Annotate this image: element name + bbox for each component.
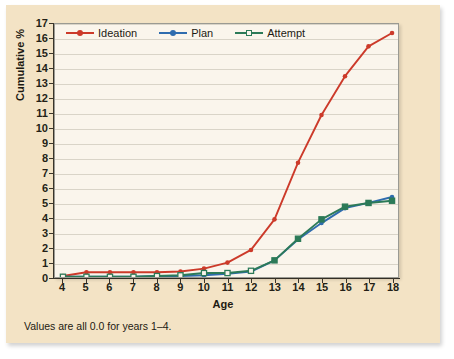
y-axis-tick-label: 11 xyxy=(28,108,48,119)
x-axis-tick-label: 14 xyxy=(292,282,304,293)
x-axis-tick-label: 13 xyxy=(269,282,281,293)
series-line xyxy=(63,33,392,276)
legend-marker-attempt-icon xyxy=(235,28,263,38)
x-axis-tick-label: 9 xyxy=(177,282,183,293)
legend-marker-ideation-icon xyxy=(66,28,94,38)
data-point xyxy=(249,248,254,253)
chart-legend: IdeationPlanAttempt xyxy=(66,27,305,39)
y-axis-tick-label: 3 xyxy=(28,228,48,239)
legend-label: Ideation xyxy=(98,27,137,39)
data-point xyxy=(366,200,371,205)
y-axis-tick-label: 0 xyxy=(28,273,48,284)
y-axis-tick-label: 15 xyxy=(28,48,48,59)
x-axis-tick-label: 18 xyxy=(387,282,399,293)
plot-area xyxy=(54,23,399,278)
plot-wrapper xyxy=(54,23,399,278)
y-axis-tick-label: 10 xyxy=(28,123,48,134)
legend-item-plan[interactable]: Plan xyxy=(159,27,213,39)
data-point xyxy=(248,268,253,273)
x-axis-tick-label: 12 xyxy=(245,282,257,293)
data-point xyxy=(366,44,371,49)
x-axis-title: Age xyxy=(6,298,440,310)
legend-item-ideation[interactable]: Ideation xyxy=(66,27,137,39)
data-point xyxy=(272,258,277,263)
data-point xyxy=(390,31,395,36)
data-point xyxy=(389,198,394,203)
chart-card: Cumulative % 01234567891011121314151617 … xyxy=(6,5,440,343)
x-axis-tick-label: 16 xyxy=(340,282,352,293)
series-ideation xyxy=(61,31,395,278)
legend-label: Plan xyxy=(191,27,213,39)
legend-marker-plan-icon xyxy=(159,28,187,38)
x-axis-tick-label: 4 xyxy=(59,282,65,293)
y-axis-title: Cumulative % xyxy=(14,29,26,101)
x-axis-tick-label: 10 xyxy=(198,282,210,293)
data-point xyxy=(295,236,300,241)
data-point xyxy=(225,260,230,265)
data-point xyxy=(296,160,301,165)
series-lines xyxy=(55,24,398,278)
data-point xyxy=(342,204,347,209)
legend-label: Attempt xyxy=(267,27,305,39)
y-axis-tick-label: 14 xyxy=(28,63,48,74)
y-axis-tick-label: 16 xyxy=(28,33,48,44)
y-axis-tick-label: 2 xyxy=(28,243,48,254)
x-axis-tick-label: 15 xyxy=(316,282,328,293)
y-axis-tick-label: 7 xyxy=(28,168,48,179)
y-axis-tick-label: 5 xyxy=(28,198,48,209)
data-point xyxy=(201,270,206,275)
data-point xyxy=(319,113,324,118)
data-point xyxy=(319,217,324,222)
x-axis-tick-label: 5 xyxy=(83,282,89,293)
chart-footnote: Values are all 0.0 for years 1–4. xyxy=(24,320,171,332)
data-point xyxy=(343,74,348,79)
x-axis-tick-label: 11 xyxy=(222,282,234,293)
data-point xyxy=(154,273,159,277)
legend-item-attempt[interactable]: Attempt xyxy=(235,27,305,39)
data-point xyxy=(272,217,277,222)
y-axis-tick-label: 12 xyxy=(28,93,48,104)
data-point xyxy=(178,273,183,278)
y-axis-tick-label: 1 xyxy=(28,258,48,269)
y-axis-tick-label: 8 xyxy=(28,153,48,164)
x-axis-tick-label: 7 xyxy=(130,282,136,293)
y-axis-tick-label: 4 xyxy=(28,213,48,224)
x-axis-tick-label: 6 xyxy=(106,282,112,293)
x-axis-tick-labels: 456789101112131415161718 xyxy=(54,278,399,300)
y-axis-tick-label: 6 xyxy=(28,183,48,194)
x-axis-tick-label: 8 xyxy=(154,282,160,293)
data-point xyxy=(225,270,230,275)
x-axis-tick-label: 17 xyxy=(363,282,375,293)
y-axis-tick-label: 17 xyxy=(28,18,48,29)
y-axis-tick-label: 9 xyxy=(28,138,48,149)
series-line xyxy=(63,201,392,277)
y-axis-tick-label: 13 xyxy=(28,78,48,89)
